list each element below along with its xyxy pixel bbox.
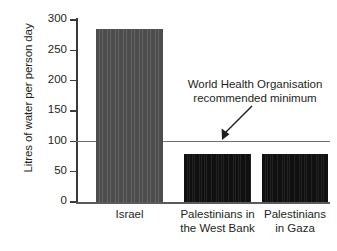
y-axis-tick: 150 bbox=[70, 110, 76, 111]
x-axis-label-line: Palestinians bbox=[248, 208, 337, 222]
y-axis-tick-label: 250 bbox=[48, 42, 67, 56]
x-axis-line bbox=[76, 202, 330, 204]
y-axis-tick-label: 300 bbox=[48, 11, 67, 25]
annotation-arrow-icon bbox=[212, 104, 258, 142]
x-axis-label-line: Israel bbox=[82, 208, 177, 222]
water-consumption-bar-chart: Litres of water per person day 050100150… bbox=[0, 0, 337, 251]
y-axis-tick-label: 150 bbox=[48, 102, 67, 116]
bar-palestinians-in-the-west-bank bbox=[184, 154, 251, 202]
y-axis-tick: 50 bbox=[70, 171, 76, 172]
x-axis-label-3: Palestiniansin Gaza bbox=[248, 208, 337, 235]
who-minimum-annotation: World Health Organisation recommended mi… bbox=[176, 78, 334, 105]
y-axis-tick: 0 bbox=[70, 201, 76, 202]
x-axis-label-1: Israel bbox=[82, 208, 177, 222]
x-axis-label-line: in Gaza bbox=[248, 222, 337, 236]
y-axis-tick-label: 0 bbox=[61, 193, 67, 207]
y-axis-title: Litres of water per person day bbox=[22, 0, 34, 198]
y-axis-tick-label: 200 bbox=[48, 72, 67, 86]
bar-israel bbox=[96, 29, 163, 202]
annotation-line-2: recommended minimum bbox=[176, 92, 334, 106]
y-axis-tick: 300 bbox=[70, 19, 76, 20]
y-axis-tick-label: 50 bbox=[54, 163, 67, 177]
bar-palestinians-in-gaza bbox=[262, 154, 328, 202]
y-axis-tick: 200 bbox=[70, 80, 76, 81]
plot-area: 050100150200250300 bbox=[76, 18, 330, 204]
annotation-line-1: World Health Organisation bbox=[176, 78, 334, 92]
y-axis-tick: 250 bbox=[70, 50, 76, 51]
y-axis-line bbox=[76, 18, 78, 204]
y-axis-tick-label: 100 bbox=[48, 133, 67, 147]
